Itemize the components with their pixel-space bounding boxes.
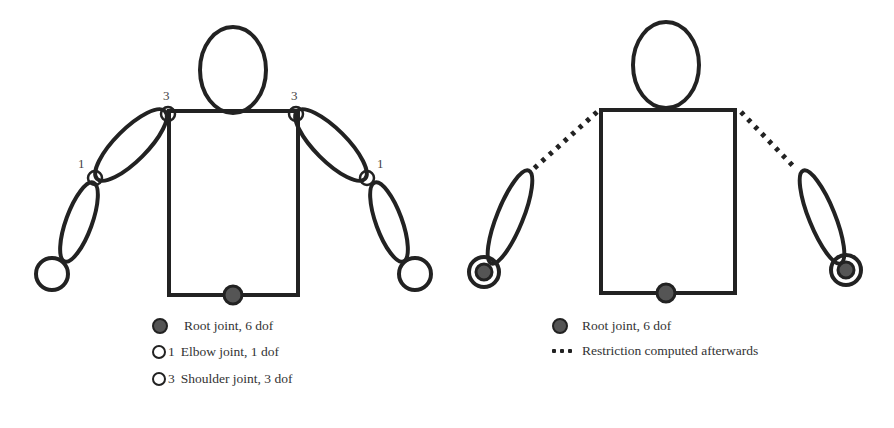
forearm-right-l — [362, 178, 415, 266]
legend-number: 1 — [168, 344, 175, 360]
hand-joint-left-r-inner — [476, 264, 492, 280]
legend-label: Restriction computed afterwards — [582, 343, 758, 359]
legend-label: Shoulder joint, 3 dof — [181, 371, 293, 387]
filled-circle-icon — [152, 318, 168, 334]
legend-item-elbow-joint: 1 Elbow joint, 1 dof — [152, 344, 279, 360]
legend-label: Elbow joint, 1 dof — [181, 344, 279, 360]
left-skeleton — [36, 27, 431, 304]
torso-left — [169, 111, 298, 295]
legend-item-shoulder-joint: 3 Shoulder joint, 3 dof — [152, 371, 293, 387]
restriction-line-left — [530, 112, 597, 172]
legend-number: 3 — [168, 371, 175, 387]
torso-right — [601, 110, 735, 293]
legend-item-root-joint: Root joint, 6 dof — [552, 318, 671, 334]
head-right — [633, 22, 699, 108]
root-joint-left — [224, 286, 242, 304]
hand-joint-right-r-inner — [838, 262, 854, 278]
label-elbow-left: 1 — [78, 156, 85, 171]
label-shoulder-left: 3 — [163, 88, 170, 103]
legend-item-restriction: Restriction computed afterwards — [552, 343, 758, 359]
label-elbow-right: 1 — [377, 156, 384, 171]
open-circle-icon — [152, 345, 166, 359]
right-skeleton — [469, 22, 861, 302]
hand-left-l — [36, 258, 68, 290]
diagram-canvas: 3 3 1 1 — [0, 0, 894, 428]
forearm-left-r — [479, 166, 541, 268]
legend-label: Root joint, 6 dof — [184, 318, 273, 334]
root-joint-right — [657, 284, 675, 302]
forearm-right-r — [791, 166, 853, 268]
upper-arm-left-l — [86, 100, 177, 191]
dotted-line-icon — [552, 349, 572, 353]
legend-label: Root joint, 6 dof — [582, 318, 671, 334]
head-left — [200, 27, 266, 113]
hand-right-l — [399, 258, 431, 290]
open-circle-icon — [152, 372, 166, 386]
label-shoulder-right: 3 — [291, 88, 298, 103]
restriction-line-right — [741, 112, 795, 168]
legend-item-root-joint: Root joint, 6 dof — [152, 318, 273, 334]
forearm-left-l — [52, 178, 105, 266]
filled-circle-icon — [552, 318, 568, 334]
